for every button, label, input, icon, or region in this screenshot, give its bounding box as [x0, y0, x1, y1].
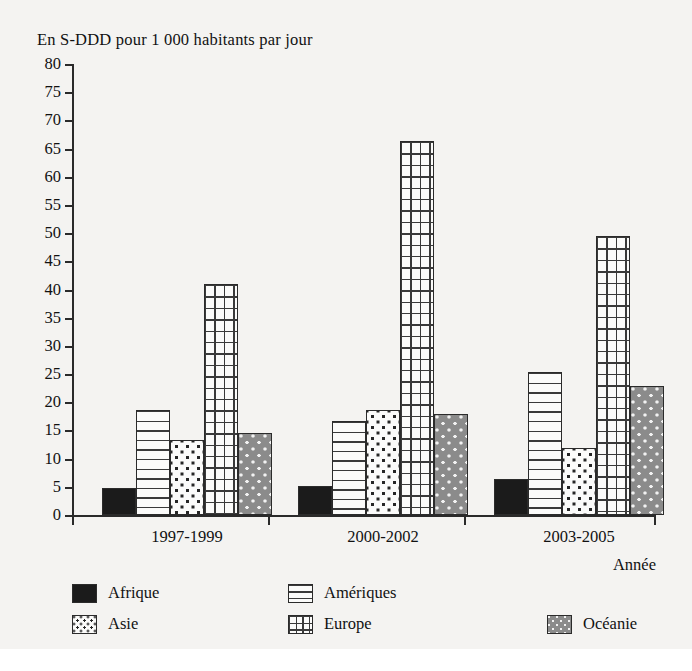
y-tick-label: 65 — [45, 140, 62, 157]
plot-area: 05101520253035404550556065707580 — [72, 64, 656, 517]
y-tick-mark — [65, 374, 72, 376]
y-tick-mark — [65, 205, 72, 207]
bar-amriques-2003-2005[interactable] — [528, 372, 562, 515]
y-tick-label: 30 — [45, 338, 62, 355]
x-tick-mark — [464, 517, 466, 525]
y-tick-mark — [65, 149, 72, 151]
bar-group — [102, 284, 272, 515]
y-axis-line — [72, 64, 74, 517]
y-tick-mark — [65, 92, 72, 94]
y-tick-label: 25 — [45, 366, 62, 383]
legend-swatch-icon — [547, 615, 572, 634]
legend-label: Océanie — [583, 616, 637, 633]
y-tick-mark — [65, 402, 72, 404]
bar-asie-2000-2002[interactable] — [366, 410, 400, 515]
y-tick-mark — [65, 64, 72, 66]
x-tick-label: 1997-1999 — [151, 527, 223, 547]
bar-amriques-1997-1999[interactable] — [136, 410, 170, 515]
y-tick-mark — [65, 430, 72, 432]
legend-label: Afrique — [108, 585, 159, 602]
bar-ocanie-2003-2005[interactable] — [630, 386, 664, 515]
y-tick-mark — [65, 515, 72, 517]
legend-item-europe[interactable]: Europe — [288, 615, 372, 634]
bar-asie-2003-2005[interactable] — [562, 448, 596, 515]
x-axis-title: Année — [613, 555, 656, 575]
legend-swatch-icon — [72, 615, 97, 634]
bar-afrique-1997-1999[interactable] — [102, 488, 136, 515]
bar-europe-2000-2002[interactable] — [400, 141, 434, 515]
y-tick-label: 75 — [45, 84, 62, 101]
legend-swatch-icon — [288, 615, 313, 634]
legend-item-asie[interactable]: Asie — [72, 615, 138, 634]
legend-label: Europe — [324, 616, 372, 633]
legend-label: Amériques — [324, 585, 396, 602]
bar-ocanie-2000-2002[interactable] — [434, 414, 468, 515]
y-tick-label: 70 — [45, 112, 62, 129]
y-tick-label: 15 — [45, 422, 62, 439]
y-tick-label: 40 — [45, 281, 62, 298]
x-tick-mark — [268, 517, 270, 525]
y-tick-label: 0 — [53, 507, 61, 524]
bar-afrique-2000-2002[interactable] — [298, 486, 332, 515]
y-tick-mark — [65, 120, 72, 122]
legend-swatch-icon — [288, 584, 313, 603]
bar-asie-1997-1999[interactable] — [170, 440, 204, 515]
bar-europe-2003-2005[interactable] — [596, 236, 630, 515]
y-tick-mark — [65, 177, 72, 179]
y-tick-mark — [65, 261, 72, 263]
legend-swatch-icon — [72, 584, 97, 603]
y-tick-label: 5 — [53, 479, 61, 496]
y-tick-label: 35 — [45, 309, 62, 326]
y-tick-mark — [65, 233, 72, 235]
bar-group — [298, 141, 468, 515]
bar-europe-1997-1999[interactable] — [204, 284, 238, 515]
x-tick-label: 2000-2002 — [347, 527, 419, 547]
chart-figure: En S-DDD pour 1 000 habitants par jour 0… — [0, 0, 692, 649]
bar-afrique-2003-2005[interactable] — [494, 479, 528, 515]
y-tick-label: 10 — [45, 450, 62, 467]
legend-item-ocanie[interactable]: Océanie — [547, 615, 637, 634]
legend-item-afrique[interactable]: Afrique — [72, 584, 159, 603]
y-tick-mark — [65, 290, 72, 292]
legend-label: Asie — [108, 616, 138, 633]
legend-item-amriques[interactable]: Amériques — [288, 584, 396, 603]
y-tick-label: 60 — [45, 169, 62, 186]
y-tick-label: 80 — [45, 56, 62, 73]
x-tick-mark — [72, 517, 74, 525]
y-tick-mark — [65, 346, 72, 348]
bar-ocanie-1997-1999[interactable] — [238, 433, 272, 515]
bar-group — [494, 236, 664, 515]
y-axis-title: En S-DDD pour 1 000 habitants par jour — [37, 30, 313, 50]
y-tick-label: 20 — [45, 394, 62, 411]
x-axis-line — [72, 515, 656, 517]
x-tick-mark — [654, 517, 656, 525]
y-tick-label: 45 — [45, 253, 62, 270]
y-tick-mark — [65, 487, 72, 489]
y-tick-label: 55 — [45, 197, 62, 214]
y-tick-mark — [65, 318, 72, 320]
bar-amriques-2000-2002[interactable] — [332, 421, 366, 515]
chart-legend: AfriqueAmériquesAsieEuropeOcéanie — [0, 582, 692, 644]
y-tick-label: 50 — [45, 225, 62, 242]
y-tick-mark — [65, 459, 72, 461]
x-tick-label: 2003-2005 — [543, 527, 615, 547]
